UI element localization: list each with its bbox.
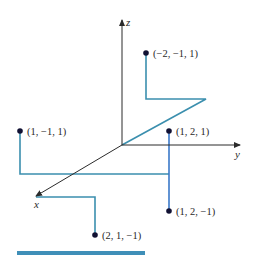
point-marker — [17, 128, 23, 134]
point-marker — [143, 50, 149, 56]
point-label: (1, 2, 1) — [176, 126, 210, 138]
guide-lines-point-2-1-neg1 — [36, 197, 95, 235]
point-marker — [166, 128, 172, 134]
guide-lines-point-1-neg1-1 — [20, 131, 169, 174]
point-label: (1, 2, −1) — [176, 206, 216, 218]
z-axis-label: z — [125, 16, 131, 28]
x-axis — [36, 145, 122, 196]
x-axis-label: x — [33, 198, 39, 210]
coordinate-diagram: z y x (−2, −1, 1) (1, −1, 1) (1, 2, 1) (… — [0, 0, 257, 257]
point-label: (1, −1, 1) — [27, 126, 67, 138]
point-label: (2, 1, −1) — [102, 230, 142, 242]
point-label: (−2, −1, 1) — [153, 48, 199, 60]
point-marker — [92, 232, 98, 238]
bottom-bar — [17, 251, 145, 255]
point-marker — [166, 208, 172, 214]
y-axis-label: y — [234, 148, 240, 160]
